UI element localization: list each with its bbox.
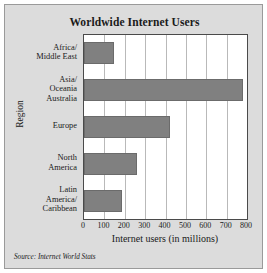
- bar: [84, 42, 114, 64]
- bar-band: [84, 145, 247, 182]
- x-axis-tick-label: 300: [138, 221, 150, 230]
- chart-title: Worldwide Internet Users: [5, 16, 264, 28]
- source-note: Source: Internet World Stats: [14, 253, 96, 261]
- x-axis-tick-label: 800: [240, 221, 252, 230]
- chart-figure: Worldwide Internet Users Region Africa/M…: [4, 4, 263, 269]
- x-axis-tick-labels: 0100200300400500600700800: [83, 221, 248, 232]
- bar-band: [84, 35, 247, 72]
- x-axis-tick-label: 100: [97, 221, 109, 230]
- x-axis-tick-label: 600: [199, 221, 211, 230]
- bar-band: [84, 109, 247, 146]
- x-axis-tick-label: 500: [179, 221, 191, 230]
- bar: [84, 116, 170, 138]
- y-axis-tick-label: Asia/OceaniaAustralia: [25, 71, 80, 108]
- y-axis-tick-label: LatinAmerica/Caribbean: [25, 181, 80, 218]
- y-axis-tick-label: Africa/Middle East: [25, 34, 80, 71]
- bar: [84, 190, 122, 212]
- y-axis-tick-label: NorthAmerica: [25, 144, 80, 181]
- bar-band: [84, 182, 247, 219]
- x-axis-title: Internet users (in millions): [65, 233, 265, 244]
- x-axis-tick-label: 700: [220, 221, 232, 230]
- x-axis-tick-label: 0: [81, 221, 85, 230]
- y-axis-tick-labels: Africa/Middle EastAsia/OceaniaAustraliaE…: [25, 34, 80, 220]
- y-axis-title: Region: [15, 84, 25, 144]
- bar-band: [84, 72, 247, 109]
- y-axis-tick-label: Europe: [25, 108, 80, 145]
- x-axis-tick-label: 400: [159, 221, 171, 230]
- x-axis-tick-label: 200: [118, 221, 130, 230]
- bar: [84, 153, 137, 175]
- plot-area: [83, 34, 248, 220]
- bar: [84, 79, 243, 101]
- bar-series: [84, 35, 247, 219]
